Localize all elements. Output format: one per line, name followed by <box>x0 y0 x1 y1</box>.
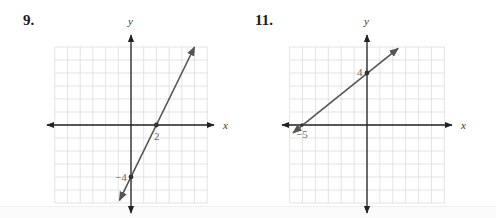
point-label-neg5: −5 <box>296 128 308 140</box>
plotted-line-11 <box>293 48 398 133</box>
point-label-2: 2 <box>154 130 160 142</box>
x-axis-label-11: x <box>460 119 466 131</box>
y-axis-label-11: y <box>363 15 369 27</box>
point-y-intercept-9 <box>129 175 134 180</box>
y-axis-label-9: y <box>127 15 133 27</box>
point-label-4: 4 <box>357 66 363 78</box>
point-label-neg4: −4 <box>115 171 127 183</box>
graph-9: x y 2 −4 <box>47 15 228 213</box>
graphs-canvas: x y 2 −4 x y 4 −5 <box>0 0 496 218</box>
graph-11: x y 4 −5 <box>282 15 466 213</box>
point-x-intercept-9 <box>154 123 159 128</box>
point-y-intercept-11 <box>365 71 370 76</box>
point-x-intercept-11 <box>300 123 304 127</box>
x-axis-label-9: x <box>222 119 228 131</box>
